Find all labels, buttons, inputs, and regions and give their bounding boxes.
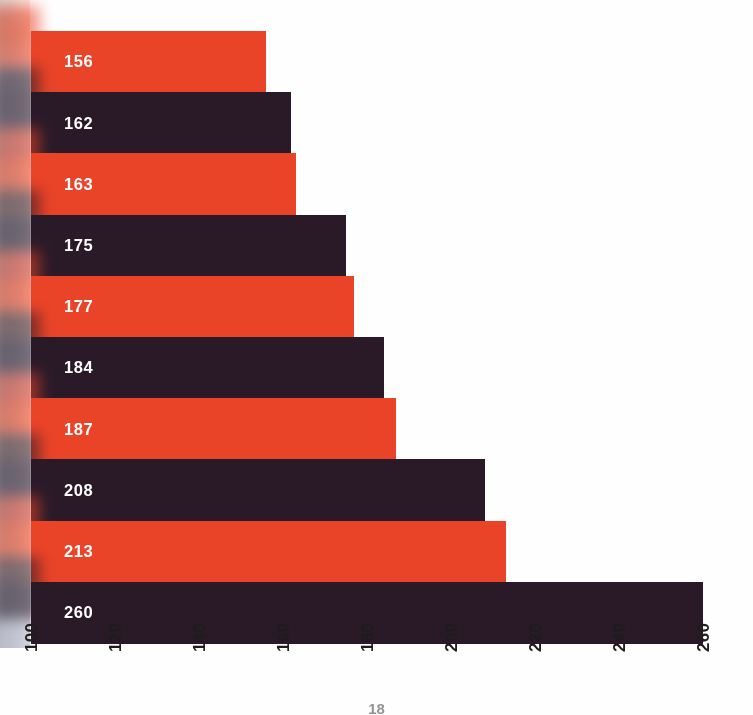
x-axis-tick-label: 180 [358, 623, 378, 652]
bar: 187 [31, 398, 396, 460]
bar-value-label: 187 [64, 420, 93, 439]
bar: 208 [31, 459, 485, 521]
bar-value-label: 177 [64, 297, 93, 316]
bar-value-label: 156 [64, 52, 93, 71]
bar: 184 [31, 337, 384, 399]
bar-chart-figure: 156162163175177184187208213260 100120140… [0, 0, 753, 715]
x-axis-tick-label: 160 [274, 623, 294, 652]
bar-value-label: 175 [64, 236, 93, 255]
bar-value-label: 184 [64, 358, 93, 377]
bar: 162 [31, 92, 291, 154]
x-axis-tick-label: 140 [190, 623, 210, 652]
plot-area: 156162163175177184187208213260 [0, 0, 753, 648]
x-axis-tick-label: 120 [106, 623, 126, 652]
bar: 163 [31, 153, 296, 215]
bar: 175 [31, 215, 346, 277]
bar-value-label: 163 [64, 175, 93, 194]
bar: 156 [31, 31, 266, 93]
x-axis-tick-label: 240 [610, 623, 630, 652]
x-axis-tick-label: 260 [694, 623, 714, 652]
page-folio: 18 [0, 700, 753, 715]
bar: 213 [31, 521, 506, 583]
bar-value-label: 213 [64, 542, 93, 561]
x-axis-tick-label: 100 [22, 623, 42, 652]
x-axis-tick-label: 220 [526, 623, 546, 652]
bar-value-label: 260 [64, 603, 93, 622]
bar: 177 [31, 276, 354, 338]
bar-value-label: 208 [64, 481, 93, 500]
x-axis-tick-label: 200 [442, 623, 462, 652]
bar-value-label: 162 [64, 114, 93, 133]
